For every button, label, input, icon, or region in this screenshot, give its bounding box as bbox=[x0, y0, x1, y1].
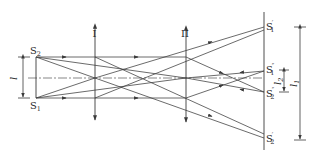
optical-ray-diagram: S2 S1 I II S′1 S″1 S″2 S′2 l l2 l1 bbox=[0, 0, 313, 156]
dimension-l bbox=[18, 57, 30, 98]
label-S2: S2 bbox=[30, 45, 41, 58]
rays bbox=[36, 27, 264, 138]
label-S1-prime: S′1 bbox=[266, 19, 274, 34]
label-lens-2: II bbox=[181, 28, 189, 39]
label-S1-double-prime: S″1 bbox=[266, 62, 275, 77]
label-dim-l: l bbox=[8, 77, 19, 80]
label-dim-l2: l2 bbox=[272, 78, 285, 85]
label-S2-double-prime: S″2 bbox=[266, 86, 275, 101]
label-S2-prime: S′2 bbox=[266, 131, 274, 146]
label-dim-l1: l1 bbox=[288, 80, 301, 87]
label-S1: S1 bbox=[30, 100, 41, 113]
label-lens-1: I bbox=[93, 28, 97, 39]
